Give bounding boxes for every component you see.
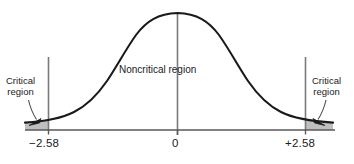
leader-line-critical-right (318, 100, 326, 120)
axis-tick-label-positive: +2.58 (285, 137, 315, 150)
critical-region-label-right-line2: region (312, 87, 341, 98)
leader-line-critical-left (29, 100, 37, 120)
critical-region-label-right: Critical region (312, 76, 341, 98)
axis-tick-label-negative: −2.58 (29, 137, 59, 150)
critical-region-label-left-line2: region (6, 87, 35, 98)
normal-distribution-figure: Critical region Critical region Noncriti… (0, 0, 354, 164)
noncritical-region-label: Noncritical region (119, 64, 196, 76)
axis-tick-label-zero: 0 (172, 137, 179, 150)
critical-region-label-left: Critical region (6, 76, 35, 98)
